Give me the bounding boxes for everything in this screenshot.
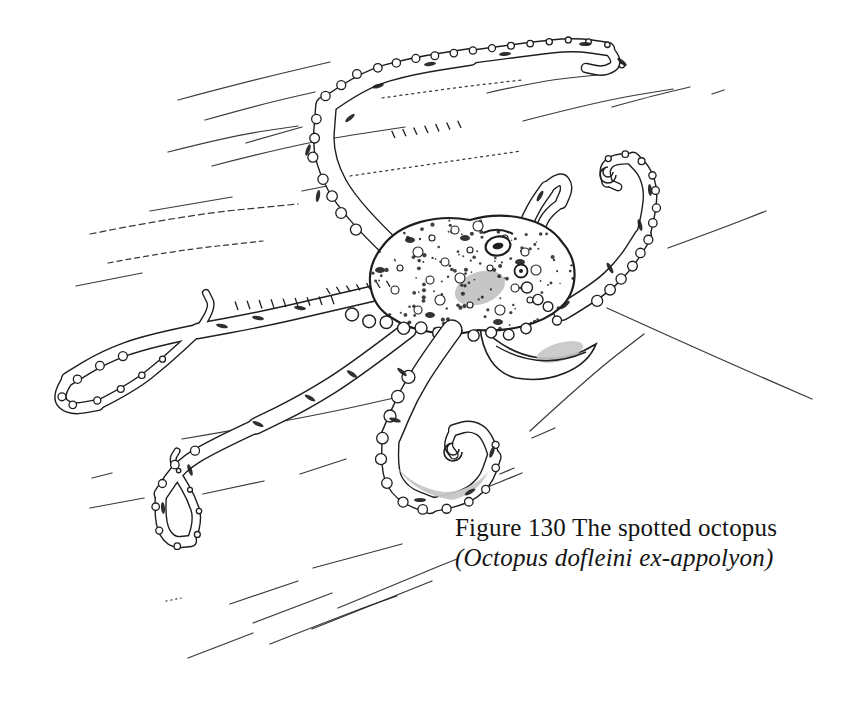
figure-caption: Figure 130 The spotted octopus (Octopus … [455, 513, 835, 573]
mantle-body [366, 214, 579, 340]
tentacle-front-curl [375, 330, 499, 514]
book-page: Figure 130 The spotted octopus (Octopus … [0, 0, 850, 702]
arm-webbing [480, 326, 596, 379]
caption-line-2: (Octopus dofleini ex-appolyon) [455, 543, 835, 573]
octopus-illustration [0, 0, 850, 702]
tentacle-lower-left-loop [152, 330, 408, 549]
caption-line-1: Figure 130 The spotted octopus [455, 513, 835, 543]
